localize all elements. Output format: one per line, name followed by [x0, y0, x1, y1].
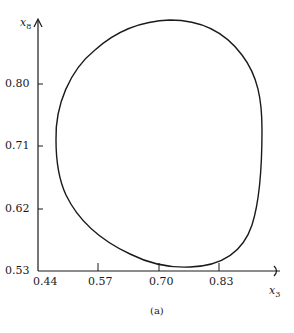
figure-caption: (a): [150, 306, 164, 316]
y-tick-label: 0.80: [5, 78, 30, 89]
orbit-curve: [56, 20, 262, 267]
y-tick-label: 0.62: [5, 203, 30, 214]
x-axis-label: x3: [269, 285, 280, 299]
x-axis-label-sub: 3: [275, 290, 280, 299]
y-tick-label: 0.53: [5, 265, 30, 276]
x-tick-label: 0.44: [33, 276, 58, 287]
y-axis-label: x8: [20, 17, 31, 31]
x-tick-label: 0.83: [209, 276, 234, 287]
x-tick-label: 0.57: [88, 276, 113, 287]
y-axis-label-sub: 8: [26, 22, 31, 31]
x-tick-label: 0.70: [149, 276, 174, 287]
y-tick-label: 0.71: [5, 140, 30, 151]
